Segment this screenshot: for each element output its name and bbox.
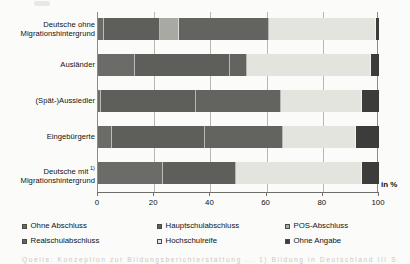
bar-segment[interactable]: [98, 162, 163, 184]
bar-segment[interactable]: [135, 54, 231, 76]
bar-segment[interactable]: [101, 90, 197, 112]
bar-segment[interactable]: [98, 126, 112, 148]
x-axis-tick-label: 100: [371, 198, 384, 207]
legend-swatch-icon: [22, 224, 27, 229]
legend-item[interactable]: Ohne Angabe: [285, 236, 341, 246]
legend-swatch-icon: [157, 239, 162, 244]
legend-item[interactable]: Ohne Abschluss: [22, 221, 87, 231]
x-axis-tick-label: 60: [261, 198, 270, 207]
legend-swatch-icon: [285, 239, 290, 244]
x-axis-tick: [322, 192, 323, 196]
legend-label: Hauptschulabschluss: [166, 221, 240, 231]
chart-area: in % Deutsche ohneMigrationshintergrundA…: [0, 0, 410, 200]
bar-segment[interactable]: [362, 162, 379, 184]
x-axis-tick: [97, 192, 98, 196]
legend-label: POS-Abschluss: [294, 221, 349, 231]
bar-row[interactable]: [98, 54, 379, 76]
bar-segment[interactable]: [269, 18, 376, 40]
legend-label: Hochschulreife: [166, 236, 218, 246]
legend-swatch-icon: [157, 224, 162, 229]
x-axis-tick: [378, 192, 379, 196]
legend-item[interactable]: POS-Abschluss: [285, 221, 348, 231]
legend-label: Ohne Angabe: [294, 236, 342, 246]
bar-segment[interactable]: [283, 126, 356, 148]
legend-item[interactable]: Hauptschulabschluss: [157, 221, 239, 231]
bar-segment[interactable]: [163, 162, 236, 184]
bar-segment[interactable]: [196, 90, 280, 112]
legend-swatch-icon: [22, 239, 27, 244]
bar-segment[interactable]: [112, 126, 205, 148]
bar-segment[interactable]: [362, 90, 379, 112]
bar-segment[interactable]: [104, 18, 160, 40]
x-axis-unit-label: in %: [381, 180, 397, 189]
x-axis-line: [97, 192, 378, 193]
bar-segment[interactable]: [179, 18, 269, 40]
bar-segment[interactable]: [205, 126, 284, 148]
bar-segment[interactable]: [247, 54, 371, 76]
category-label: Deutsche ohneMigrationshintergrund: [3, 20, 95, 39]
x-axis-tick-label: 20: [149, 198, 158, 207]
legend-label: Realschulabschluss: [31, 236, 100, 246]
bar-segment[interactable]: [376, 18, 379, 40]
bar-segment[interactable]: [98, 54, 135, 76]
legend-swatch-icon: [285, 224, 290, 229]
bar-row[interactable]: [98, 126, 379, 148]
plot-region: [97, 12, 378, 192]
legend-item[interactable]: Realschulabschluss: [22, 236, 99, 246]
bar-segment[interactable]: [281, 90, 362, 112]
x-axis-tick-label: 0: [95, 198, 99, 207]
bar-segment[interactable]: [230, 54, 247, 76]
category-label: Ausländer: [3, 60, 95, 69]
x-axis-tick: [153, 192, 154, 196]
x-axis-tick-label: 80: [317, 198, 326, 207]
bar-row[interactable]: [98, 90, 379, 112]
bar-row[interactable]: [98, 162, 379, 184]
bar-row[interactable]: [98, 18, 379, 40]
legend-item[interactable]: Hochschulreife: [157, 236, 217, 246]
x-axis-tick-label: 40: [205, 198, 214, 207]
chart-legend: Ohne AbschlussHauptschulabschlussPOS-Abs…: [0, 221, 410, 253]
footnote-marker: 1): [88, 165, 95, 171]
category-label: Eingebürgerte: [3, 132, 95, 141]
legend-label: Ohne Abschluss: [31, 221, 87, 231]
source-note: Quelle: Konzeption zur Bildungsberichter…: [22, 256, 401, 263]
bar-segment[interactable]: [371, 54, 379, 76]
bar-segment[interactable]: [160, 18, 180, 40]
category-label: (Spät-)Aussiedler: [3, 96, 95, 105]
x-axis-tick: [209, 192, 210, 196]
bar-segment[interactable]: [356, 126, 378, 148]
x-axis-tick: [266, 192, 267, 196]
bar-segment[interactable]: [236, 162, 362, 184]
category-label: Deutsche mit 1)Migrationshintergrund: [3, 164, 95, 185]
